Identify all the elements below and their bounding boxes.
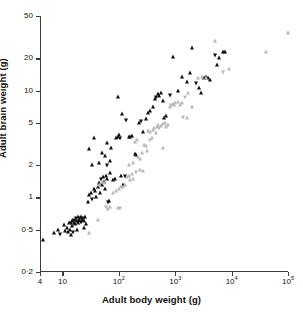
y-tick-label-5: 10 xyxy=(24,87,33,95)
data-point xyxy=(185,80,189,84)
y-tick-label-7: 50 xyxy=(24,12,33,20)
data-point xyxy=(141,169,145,173)
y-tick-label-6: 20 xyxy=(24,54,33,62)
data-point xyxy=(93,188,97,192)
data-point xyxy=(145,149,149,153)
data-point xyxy=(58,233,62,237)
data-point xyxy=(87,231,91,235)
data-point xyxy=(144,144,148,148)
data-point xyxy=(107,199,111,203)
data-point xyxy=(217,56,221,60)
data-point xyxy=(196,76,200,80)
y-tick-5: 10 xyxy=(36,91,40,92)
data-point xyxy=(141,129,145,133)
x-axis-title: Adult body weight (g) xyxy=(0,294,303,305)
data-point xyxy=(180,101,184,105)
x-tick-label-1: 10 xyxy=(58,277,67,286)
data-point xyxy=(185,115,189,119)
data-point xyxy=(124,118,128,122)
y-tick-1: 0·5 xyxy=(36,230,40,231)
data-point xyxy=(109,145,113,149)
data-point xyxy=(96,217,100,221)
data-point xyxy=(213,39,217,43)
data-point xyxy=(97,160,101,164)
data-point xyxy=(164,113,168,117)
y-tick-label-3: 2 xyxy=(29,161,33,169)
data-point xyxy=(199,90,203,94)
data-point xyxy=(161,145,165,149)
y-tick-7: 50 xyxy=(36,16,40,17)
x-tick-label-4: 104 xyxy=(226,277,238,286)
data-point xyxy=(134,170,138,174)
y-axis-title: Adult brain weight (g) xyxy=(0,58,8,158)
x-tick-0 xyxy=(40,272,41,276)
data-point xyxy=(105,176,109,180)
data-point xyxy=(139,119,143,123)
data-point xyxy=(183,96,187,100)
data-point xyxy=(148,109,152,113)
x-tick-label-2: 102 xyxy=(113,277,125,286)
data-point xyxy=(176,88,180,92)
data-point xyxy=(223,49,227,53)
y-axis-line xyxy=(40,16,41,272)
data-point xyxy=(213,54,217,58)
data-point xyxy=(131,160,135,164)
data-point xyxy=(105,164,109,168)
x-tick-2 xyxy=(119,272,120,276)
data-point xyxy=(159,90,163,94)
x-tick-3 xyxy=(175,272,176,276)
data-point xyxy=(166,122,170,126)
data-point xyxy=(135,137,139,141)
data-point xyxy=(94,195,98,199)
data-point xyxy=(180,74,184,78)
y-tick-label-0: 0·2 xyxy=(21,268,33,276)
data-point xyxy=(161,98,165,102)
x-axis-line xyxy=(40,271,288,272)
y-tick-4: 5 xyxy=(36,123,40,124)
data-point xyxy=(138,156,142,160)
data-point xyxy=(171,55,175,59)
data-point xyxy=(116,94,120,98)
data-point xyxy=(71,231,75,235)
data-point xyxy=(190,46,194,50)
data-point xyxy=(113,176,117,180)
data-point xyxy=(286,30,290,34)
y-tick-3: 2 xyxy=(36,165,40,166)
data-point xyxy=(227,66,231,70)
data-point xyxy=(41,237,45,241)
plot-area: 0·20·5125102050 410102103104105 xyxy=(40,16,288,272)
data-point xyxy=(204,76,208,80)
data-point xyxy=(215,62,219,66)
data-point xyxy=(148,129,152,133)
data-point xyxy=(92,135,96,139)
data-point xyxy=(186,90,190,94)
data-point xyxy=(75,227,79,231)
scatter-plot-figure: 0·20·5125102050 410102103104105 Adult br… xyxy=(0,0,303,318)
data-point xyxy=(98,190,102,194)
y-tick-label-2: 1 xyxy=(29,193,33,201)
data-point xyxy=(144,117,148,121)
y-tick-2: 1 xyxy=(36,197,40,198)
data-point xyxy=(131,176,135,180)
data-point xyxy=(118,206,122,210)
data-point xyxy=(103,153,107,157)
data-point xyxy=(52,231,56,235)
data-point xyxy=(197,86,201,90)
data-point xyxy=(130,133,134,137)
data-point xyxy=(120,112,124,116)
x-tick-1 xyxy=(62,272,63,276)
data-point xyxy=(123,183,127,187)
data-point xyxy=(154,130,158,134)
data-point xyxy=(221,71,225,75)
data-point xyxy=(105,141,109,145)
data-point xyxy=(82,225,86,229)
data-point xyxy=(90,163,94,167)
data-point xyxy=(87,146,91,150)
x-tick-4 xyxy=(232,272,233,276)
x-tick-5 xyxy=(288,272,289,276)
data-point xyxy=(151,105,155,109)
data-point xyxy=(188,71,192,75)
data-point xyxy=(168,93,172,97)
y-tick-label-1: 0·5 xyxy=(21,226,33,234)
data-point xyxy=(264,49,268,53)
